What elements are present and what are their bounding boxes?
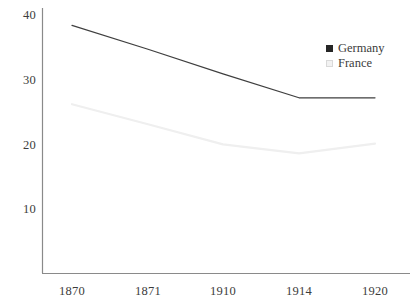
x-tick-label-1870: 1870 bbox=[59, 285, 85, 298]
outlined-square-icon bbox=[326, 60, 333, 67]
x-tick-label-1910: 1910 bbox=[210, 285, 236, 298]
y-tick-label-30: 30 bbox=[14, 74, 36, 87]
x-tick-label-1920: 1920 bbox=[362, 285, 388, 298]
x-tick-label-1914: 1914 bbox=[286, 285, 312, 298]
y-tick-label-20: 20 bbox=[14, 139, 36, 152]
y-tick-label-40: 40 bbox=[14, 9, 36, 22]
legend-item-germany: Germany bbox=[326, 41, 385, 56]
y-tick-label-10: 10 bbox=[14, 203, 36, 216]
legend-item-france: France bbox=[326, 56, 385, 71]
legend-label-germany: Germany bbox=[338, 42, 385, 55]
series-line-france bbox=[72, 104, 375, 153]
filled-square-icon bbox=[326, 45, 333, 52]
line-chart: 40 30 20 10 1870 1871 1910 1914 1920 Ger… bbox=[0, 0, 416, 307]
legend-label-france: France bbox=[338, 57, 372, 70]
chart-legend: Germany France bbox=[326, 41, 385, 71]
x-tick-label-1871: 1871 bbox=[135, 285, 161, 298]
